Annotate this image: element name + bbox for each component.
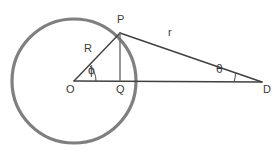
angle-theta-arc	[234, 73, 236, 83]
geometry-canvas	[0, 0, 279, 155]
distance-pd-line	[120, 33, 262, 82]
vertex-label-d: D	[263, 84, 271, 95]
vertex-label-q: Q	[116, 84, 125, 95]
vertex-label-p: P	[117, 14, 124, 25]
angle-label-phi: ϕ	[88, 64, 95, 76]
geometry-diagram: P O Q D R r ϕ θ	[0, 0, 279, 155]
radius-op-line	[74, 33, 120, 81]
vertex-label-o: O	[66, 84, 75, 95]
segment-label-distance-r: r	[168, 27, 172, 38]
angle-label-theta: θ	[216, 63, 223, 75]
segment-label-radius-R: R	[84, 43, 92, 54]
